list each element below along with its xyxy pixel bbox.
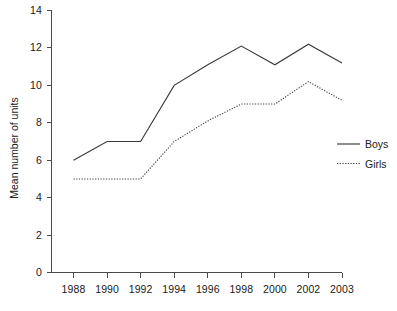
y-tick-label: 4 xyxy=(20,191,42,203)
y-tick-label: 14 xyxy=(20,4,42,16)
plot-area xyxy=(0,0,397,311)
y-tick-label: 8 xyxy=(20,116,42,128)
y-tick-label: 12 xyxy=(20,41,42,53)
y-tick-marks xyxy=(47,11,52,273)
series-line-girls xyxy=(74,82,343,179)
y-tick-label: 0 xyxy=(20,266,42,278)
legend-label-girls: Girls xyxy=(365,158,387,170)
series-line-boys xyxy=(74,44,343,160)
y-axis-title: Mean number of units xyxy=(8,88,20,208)
y-tick-label: 2 xyxy=(20,229,42,241)
y-tick-label: 10 xyxy=(20,79,42,91)
x-tick-marks xyxy=(74,273,343,279)
x-tick-label: 2003 xyxy=(319,283,365,295)
legend-label-boys: Boys xyxy=(365,138,388,150)
line-chart: Mean number of units 14 12 10 8 6 4 2 0 … xyxy=(0,0,397,311)
y-tick-label: 6 xyxy=(20,154,42,166)
